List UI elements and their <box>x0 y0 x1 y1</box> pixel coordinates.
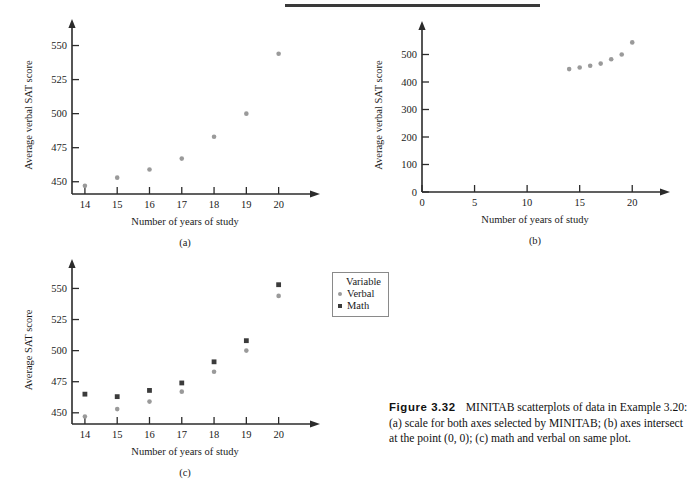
x-tick-label: 17 <box>177 199 188 210</box>
x-tick-label: 16 <box>144 199 155 210</box>
data-point-verbal <box>179 389 184 394</box>
y-tick-label: 500 <box>51 108 67 119</box>
scatterplot-panel-b: 010020030040050005101520Number of years … <box>360 14 690 244</box>
data-point-verbal <box>577 65 582 70</box>
math-marker-icon <box>338 304 342 308</box>
y-tick-label: 450 <box>51 176 67 187</box>
y-axis-title: Average verbal SAT score <box>23 60 34 170</box>
panel-letter: (c) <box>179 467 191 479</box>
x-tick-label: 15 <box>112 429 123 440</box>
x-axis-title: Number of years of study <box>131 446 239 457</box>
y-tick-label: 475 <box>51 376 67 387</box>
y-tick-label: 550 <box>51 283 67 294</box>
legend-label-math: Math <box>347 300 369 312</box>
figure-caption: Figure 3.32MINITAB scatterplots of data … <box>389 400 694 447</box>
x-tick-label: 10 <box>522 197 533 208</box>
data-point-verbal <box>179 156 184 161</box>
y-tick-label: 525 <box>51 74 67 85</box>
x-tick-label: 19 <box>241 429 252 440</box>
x-axis-title: Number of years of study <box>481 214 589 225</box>
legend-item-math[interactable]: Math <box>338 300 381 312</box>
x-tick-label: 18 <box>209 429 220 440</box>
data-point-verbal <box>212 369 217 374</box>
data-point-verbal <box>147 167 152 172</box>
data-point-math <box>115 394 120 399</box>
x-tick-label: 20 <box>627 197 638 208</box>
figure-number: Figure 3.32 <box>389 401 456 413</box>
data-point-math <box>244 338 249 343</box>
y-tick-label: 500 <box>51 345 67 356</box>
y-tick-label: 550 <box>51 40 67 51</box>
y-tick-label: 100 <box>401 159 417 170</box>
x-tick-label: 19 <box>241 199 252 210</box>
scatterplot-panel-a: 45047550052555014151617181920Number of y… <box>10 14 340 244</box>
y-tick-label: 500 <box>401 49 417 60</box>
data-point-math <box>83 392 88 397</box>
x-tick-label: 20 <box>273 429 284 440</box>
panel-letter: (a) <box>179 237 191 249</box>
x-tick-label: 15 <box>112 199 123 210</box>
y-tick-label: 525 <box>51 314 67 325</box>
data-point-verbal <box>609 57 614 62</box>
y-axis-title: Average SAT score <box>23 309 34 390</box>
data-point-verbal <box>83 414 88 419</box>
figure-page: 45047550052555014151617181920Number of y… <box>0 0 700 482</box>
panel-letter: (b) <box>529 235 542 247</box>
legend-item-verbal[interactable]: Verbal <box>338 288 381 300</box>
legend-variable: Variable Verbal Math <box>332 272 389 317</box>
data-point-verbal <box>588 63 593 68</box>
y-tick-label: 300 <box>401 104 417 115</box>
data-point-verbal <box>244 111 249 116</box>
scatterplot-a-svg: 45047550052555014151617181920Number of y… <box>10 14 340 244</box>
y-axis-title: Average verbal SAT score <box>373 60 384 170</box>
data-point-verbal <box>630 40 635 45</box>
scatterplot-c-svg: 45047550052555014151617181920Number of y… <box>10 252 340 477</box>
legend-label-verbal: Verbal <box>347 288 374 300</box>
data-point-verbal <box>83 184 88 189</box>
scatterplot-panel-c: 45047550052555014151617181920Number of y… <box>10 252 340 477</box>
data-point-verbal <box>244 348 249 353</box>
data-point-verbal <box>619 52 624 57</box>
x-axis-arrow-icon <box>660 188 670 195</box>
data-point-verbal <box>212 134 217 139</box>
y-tick-label: 450 <box>51 407 67 418</box>
data-point-verbal <box>115 407 120 412</box>
y-tick-label: 200 <box>401 132 417 143</box>
x-tick-label: 15 <box>574 197 585 208</box>
y-tick-label: 0 <box>412 187 417 198</box>
verbal-marker-icon <box>338 292 342 296</box>
data-point-verbal <box>567 67 572 72</box>
y-axis-arrow-icon <box>418 21 425 30</box>
y-tick-label: 400 <box>401 77 417 88</box>
y-axis-arrow-icon <box>68 19 75 28</box>
x-tick-label: 14 <box>80 199 91 210</box>
y-axis-arrow-icon <box>68 259 75 268</box>
scatterplot-b-svg: 010020030040050005101520Number of years … <box>360 14 690 244</box>
data-point-verbal <box>147 399 152 404</box>
legend-title: Variable <box>346 276 381 287</box>
data-point-verbal <box>276 294 281 299</box>
x-tick-label: 17 <box>177 429 188 440</box>
data-point-verbal <box>598 61 603 66</box>
x-axis-title: Number of years of study <box>131 216 239 227</box>
x-tick-label: 0 <box>419 197 424 208</box>
x-axis-arrow-icon <box>310 190 320 197</box>
x-tick-label: 16 <box>144 429 155 440</box>
x-tick-label: 18 <box>209 199 220 210</box>
data-point-verbal <box>115 175 120 180</box>
x-tick-label: 20 <box>273 199 284 210</box>
data-point-verbal <box>276 51 281 56</box>
data-point-math <box>212 359 217 364</box>
header-rule <box>285 4 540 7</box>
x-tick-label: 5 <box>472 197 477 208</box>
x-tick-label: 14 <box>80 429 91 440</box>
x-axis-arrow-icon <box>310 420 320 427</box>
data-point-math <box>276 282 281 287</box>
y-tick-label: 475 <box>51 142 67 153</box>
data-point-math <box>179 381 184 386</box>
data-point-math <box>147 388 152 393</box>
